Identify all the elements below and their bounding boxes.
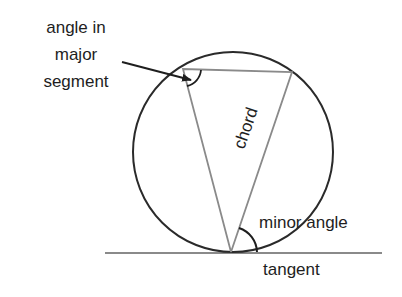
pointer-arrow [122, 62, 191, 80]
label-segment: segment [43, 72, 108, 91]
major-segment-angle-arc [187, 70, 201, 86]
label-tangent: tangent [263, 260, 320, 279]
label-angle-in: angle in [46, 18, 106, 37]
label-minor-angle: minor angle [259, 213, 348, 232]
minor-angle-arc [239, 228, 257, 252]
alternate-segment-diagram: angle in major segment chord minor angle… [0, 0, 402, 297]
label-chord: chord [230, 105, 262, 151]
label-major: major [55, 45, 98, 64]
